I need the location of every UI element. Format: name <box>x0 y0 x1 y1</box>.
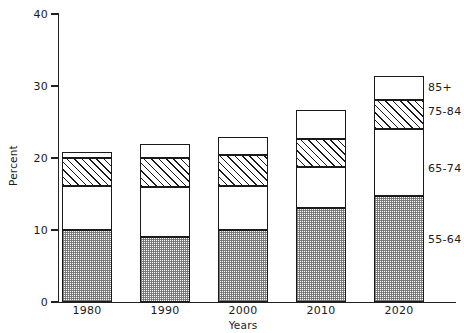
bar-segment-55-64[interactable] <box>62 230 112 302</box>
x-axis-title: Years <box>203 320 283 331</box>
y-axis-tick <box>51 13 59 14</box>
y-axis-title: Percent <box>8 136 19 196</box>
bar-segment-55-64[interactable] <box>374 196 424 302</box>
legend-label-65-74: 65-74 <box>428 163 461 174</box>
legend-label-85+: 85+ <box>428 82 452 93</box>
bar-2020[interactable] <box>374 76 424 302</box>
bar-segment-65-74[interactable] <box>218 186 268 230</box>
bar-segment-65-74[interactable] <box>374 129 424 196</box>
x-axis-tick-label-2000: 2000 <box>203 305 283 317</box>
bar-segment-85+[interactable] <box>140 144 190 158</box>
bar-segment-55-64[interactable] <box>296 208 346 302</box>
bar-2010[interactable] <box>296 110 346 302</box>
x-axis-tick-label-2010: 2010 <box>281 305 361 317</box>
bar-segment-85+[interactable] <box>62 152 112 158</box>
x-axis-tick-label-2020: 2020 <box>359 305 439 317</box>
y-axis-tick <box>51 157 59 158</box>
bar-2000[interactable] <box>218 137 268 302</box>
y-axis-tick-label: 40 <box>18 9 48 20</box>
bar-segment-85+[interactable] <box>296 110 346 139</box>
bar-segment-75-84[interactable] <box>62 158 112 186</box>
x-axis-tick-label-1990: 1990 <box>125 305 205 317</box>
y-axis-tick-label-wrap: 30 <box>8 81 48 92</box>
bar-segment-75-84[interactable] <box>140 158 190 187</box>
bar-segment-75-84[interactable] <box>374 100 424 129</box>
bar-segment-65-74[interactable] <box>140 187 190 237</box>
y-axis-tick <box>51 85 59 86</box>
legend-label-55-64: 55-64 <box>428 234 461 245</box>
bar-segment-65-74[interactable] <box>296 167 346 209</box>
bar-segment-55-64[interactable] <box>218 230 268 302</box>
y-axis-tick-label: 20 <box>18 153 48 164</box>
y-axis-tick-label: 10 <box>18 225 48 236</box>
bar-segment-75-84[interactable] <box>218 155 268 186</box>
stacked-bar-chart: 010203040 Percent 19801990200020102020 Y… <box>0 0 464 333</box>
y-axis-tick <box>51 229 59 230</box>
y-axis-tick-label-wrap: 40 <box>8 9 48 20</box>
bar-1980[interactable] <box>62 152 112 302</box>
bar-1990[interactable] <box>140 144 190 302</box>
y-axis-tick <box>51 301 59 302</box>
y-axis-tick-label: 0 <box>18 297 48 308</box>
x-axis-tick-label-1980: 1980 <box>47 305 127 317</box>
y-axis-tick-label-wrap: 10 <box>8 225 48 236</box>
bar-segment-85+[interactable] <box>374 76 424 100</box>
bar-segment-55-64[interactable] <box>140 237 190 302</box>
bar-segment-75-84[interactable] <box>296 139 346 166</box>
y-axis-tick-label: 30 <box>18 81 48 92</box>
bar-segment-65-74[interactable] <box>62 186 112 230</box>
legend-label-75-84: 75-84 <box>428 106 461 117</box>
y-axis-tick-label-wrap: 0 <box>8 297 48 308</box>
bar-segment-85+[interactable] <box>218 137 268 155</box>
